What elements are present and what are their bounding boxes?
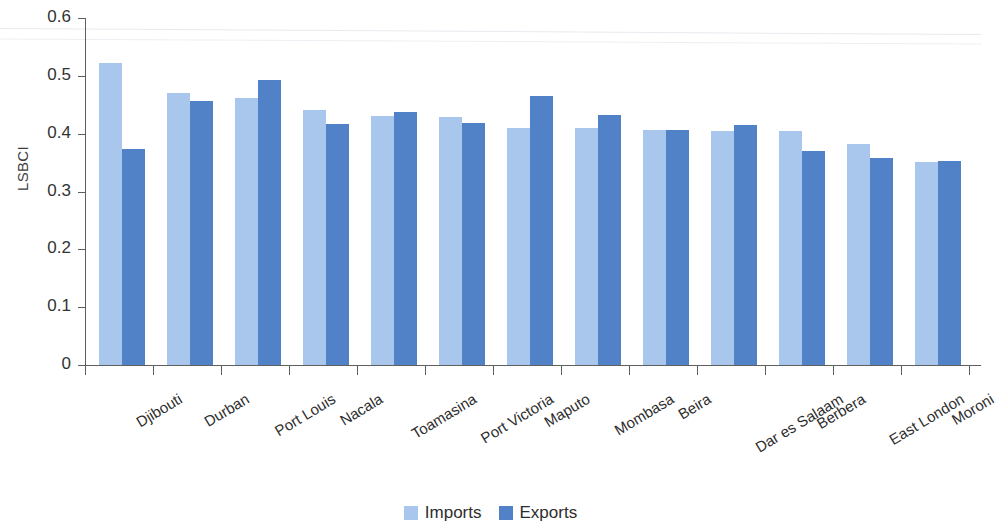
bar-exports	[938, 161, 961, 365]
bar-group	[575, 18, 621, 365]
x-axis-tick	[697, 366, 698, 375]
bar-exports	[870, 158, 893, 365]
x-axis-label: Durban	[201, 390, 252, 430]
x-axis-line	[85, 365, 981, 366]
plot-area: 0.60.50.40.30.20.10DjiboutiDurbanPort Lo…	[85, 18, 981, 365]
bar-imports	[507, 128, 530, 365]
x-axis-tick	[493, 366, 494, 375]
y-axis-tick: 0.2	[78, 249, 85, 250]
bar-group	[303, 18, 349, 365]
bar-exports	[258, 80, 281, 365]
bar-group	[439, 18, 485, 365]
x-axis-label: Mombasa	[611, 390, 676, 438]
bar-exports	[394, 112, 417, 365]
bar-imports	[99, 63, 122, 365]
bar-group	[847, 18, 893, 365]
y-axis-tick: 0.4	[78, 134, 85, 135]
x-axis-tick	[901, 366, 902, 375]
x-axis-tick	[221, 366, 222, 375]
bar-group	[915, 18, 961, 365]
bar-group	[507, 18, 553, 365]
bar-imports	[915, 162, 938, 365]
x-axis-tick	[629, 366, 630, 375]
legend-label: Exports	[520, 503, 578, 523]
bar-imports	[167, 93, 190, 365]
y-axis-tick: 0.6	[78, 18, 85, 19]
x-axis-tick	[357, 366, 358, 375]
y-axis-title: LSBCI	[14, 129, 31, 209]
legend-swatch-imports	[404, 506, 418, 520]
bar-exports	[122, 149, 145, 365]
x-axis-tick	[561, 366, 562, 375]
x-axis-tick	[153, 366, 154, 375]
bar-exports	[734, 125, 757, 365]
bar-group	[643, 18, 689, 365]
y-axis-tick-label: 0.2	[47, 238, 71, 258]
bar-exports	[802, 151, 825, 365]
bar-exports	[326, 124, 349, 365]
bar-imports	[779, 131, 802, 365]
y-axis-tick-label: 0.6	[47, 7, 71, 27]
x-axis-label: Toamasina	[408, 390, 479, 442]
legend-item-exports: Exports	[499, 503, 578, 523]
y-axis-tick: 0.5	[78, 76, 85, 77]
bar-exports	[462, 123, 485, 365]
y-axis-tick-label: 0.4	[47, 123, 71, 143]
bar-group	[711, 18, 757, 365]
bar-group	[99, 18, 145, 365]
bar-exports	[598, 115, 621, 365]
bar-exports	[190, 101, 213, 365]
y-axis-tick: 0.1	[78, 307, 85, 308]
y-axis-tick-label: 0.3	[47, 181, 71, 201]
bar-exports	[530, 96, 553, 366]
bar-imports	[439, 117, 462, 365]
y-axis-tick: 0.3	[78, 192, 85, 193]
x-axis-tick	[833, 366, 834, 375]
x-axis-label: Beira	[675, 390, 714, 423]
y-axis-tick: 0	[78, 365, 85, 366]
bar-imports	[643, 130, 666, 365]
y-axis-tick-label: 0.5	[47, 65, 71, 85]
legend-label: Imports	[425, 503, 482, 523]
bar-group	[167, 18, 213, 365]
y-axis-line	[85, 18, 86, 366]
x-axis-tick	[425, 366, 426, 375]
y-axis-tick-label: 0	[62, 354, 71, 374]
bar-group	[779, 18, 825, 365]
bar-imports	[847, 144, 870, 366]
bar-imports	[371, 116, 394, 365]
chart-legend: ImportsExports	[0, 503, 981, 523]
x-axis-tick	[765, 366, 766, 375]
bar-imports	[575, 128, 598, 365]
x-axis-tick	[85, 366, 86, 375]
bar-imports	[303, 110, 326, 365]
x-axis-label: Port Louis	[272, 390, 339, 439]
legend-swatch-exports	[499, 506, 513, 520]
y-axis-tick-label: 0.1	[47, 296, 71, 316]
bar-group	[371, 18, 417, 365]
bar-group	[235, 18, 281, 365]
bar-imports	[235, 98, 258, 365]
bar-exports	[666, 130, 689, 365]
x-axis-label: Nacala	[337, 390, 386, 429]
x-axis-tick	[969, 366, 970, 375]
x-axis-label: Djibouti	[133, 390, 185, 430]
legend-item-imports: Imports	[404, 503, 482, 523]
bar-imports	[711, 131, 734, 365]
x-axis-tick	[289, 366, 290, 375]
